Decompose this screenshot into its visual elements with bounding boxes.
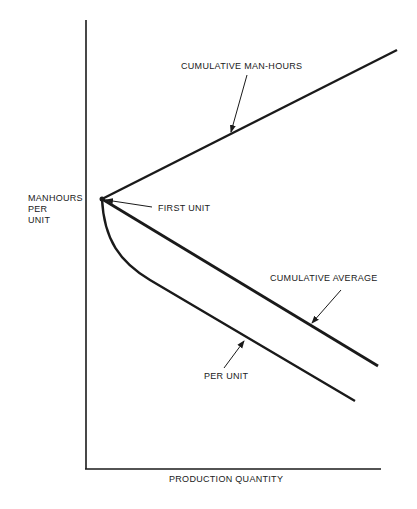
y-axis-label-line: MANHOURS	[28, 193, 88, 204]
learning-curve-diagram	[0, 0, 417, 509]
cumulative-man-hours-line	[102, 50, 397, 199]
per-unit-arrow	[224, 341, 244, 368]
cum-average-arrow	[312, 290, 341, 323]
cumulative-man-hours-label: CUMULATIVE MAN-HOURS	[181, 61, 302, 72]
cumulative-average-label: CUMULATIVE AVERAGE	[270, 273, 378, 284]
first-unit-point	[100, 197, 105, 202]
y-axis-label-line: UNIT	[28, 215, 88, 226]
cum-manhours-arrow	[231, 75, 247, 132]
per-unit-label: PER UNIT	[204, 371, 248, 382]
first-unit-label: FIRST UNIT	[158, 203, 210, 214]
x-axis-label: PRODUCTION QUANTITY	[169, 474, 283, 485]
y-axis-label-line: PER	[28, 204, 88, 215]
y-axis-label: MANHOURS PER UNIT	[28, 193, 88, 226]
